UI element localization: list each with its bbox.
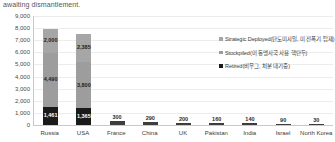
y-axis-tick-label: 1,000 (0, 110, 30, 116)
bar-value-label: 290 (146, 115, 155, 121)
bar-value-label: 2,385 (77, 45, 91, 51)
y-axis-tick-label: 6,000 (0, 49, 30, 55)
x-axis-labels: RussiaUSAFranceChinaUKPakistanIndiaIsrae… (33, 127, 333, 142)
bar-segment[interactable]: 1,461 (43, 107, 58, 125)
bar-slot: 290 (134, 16, 167, 125)
bar[interactable]: 300 (110, 121, 125, 125)
y-axis-tick-label: 8,000 (0, 25, 30, 31)
x-axis-category-label: UK (166, 127, 199, 136)
x-axis-category-label: USA (66, 127, 99, 136)
x-axis-category-label: Israel (266, 127, 299, 136)
legend-label: Strategic Deployed(탄도미사일, 미 전폭기 탑재) (225, 35, 335, 43)
bar-value-label: 2,000 (44, 38, 58, 44)
bar-value-label: 90 (280, 117, 286, 123)
x-axis-category-label: India (233, 127, 266, 136)
stacked-bar-chart: 2,0004,4901,4612,3853,8001,3653002902001… (0, 11, 335, 142)
legend-label: Stockpiled(미 동맹사국 사용 핵탄두) (225, 49, 307, 57)
x-axis-category-label: China (133, 127, 166, 136)
x-axis-category-label: Russia (33, 127, 66, 136)
legend-swatch-icon (219, 64, 223, 68)
bar-segment[interactable]: 1,365 (76, 108, 91, 125)
bar-value-label: 140 (245, 116, 254, 122)
y-axis-tick-label: 0 (0, 122, 30, 128)
bar-slot: 2,0004,4901,461 (34, 16, 67, 125)
bar[interactable]: 140 (242, 123, 257, 125)
legend-swatch-icon (219, 37, 223, 41)
legend-swatch-icon (219, 51, 223, 55)
bar-value-label: 4,490 (44, 77, 58, 83)
bar-segment[interactable]: 2,385 (76, 34, 91, 63)
y-axis-tick-label: 9,000 (0, 13, 30, 19)
legend-item-strategic-deployed: Strategic Deployed(탄도미사일, 미 전폭기 탑재) (219, 35, 335, 43)
bar-segment[interactable]: 3,800 (76, 62, 91, 108)
y-axis-tick-label: 3,000 (0, 86, 30, 92)
legend-item-retired: Retired(비무그, 처분 대기중) (219, 62, 335, 70)
chart-legend: Strategic Deployed(탄도미사일, 미 전폭기 탑재) Stoc… (219, 35, 335, 76)
y-axis-tick-label: 4,000 (0, 74, 30, 80)
bar[interactable]: 160 (209, 123, 224, 125)
bar-value-label: 1,461 (44, 113, 58, 119)
stacked-bar[interactable]: 2,0004,4901,461 (43, 29, 58, 125)
x-axis-category-label: Pakistan (200, 127, 233, 136)
y-axis-tick-label: 7,000 (0, 37, 30, 43)
bar[interactable]: 30 (309, 124, 324, 126)
legend-label: Retired(비무그, 처분 대기중) (225, 62, 290, 70)
bar-segment[interactable]: 4,490 (43, 53, 58, 107)
chart-screenshot: awaiting dismantlement. 2,0004,4901,4612… (0, 0, 335, 142)
legend-item-stockpiled: Stockpiled(미 동맹사국 사용 핵탄두) (219, 49, 335, 57)
x-axis-category-label: France (100, 127, 133, 136)
stacked-bar[interactable]: 2,3853,8001,365 (76, 34, 91, 125)
bar-value-label: 200 (179, 116, 188, 122)
plot-area: 2,0004,4901,4612,3853,8001,3653002902001… (33, 16, 333, 126)
bar[interactable]: 290 (143, 122, 158, 126)
bar-value-label: 300 (112, 114, 121, 120)
bar-slot: 300 (100, 16, 133, 125)
bar[interactable]: 90 (276, 124, 291, 126)
bar-slot: 200 (167, 16, 200, 125)
bar-segment[interactable]: 2,000 (43, 29, 58, 53)
bar[interactable]: 200 (176, 123, 191, 125)
bar-slot: 2,3853,8001,365 (67, 16, 100, 125)
y-axis-tick-label: 5,000 (0, 61, 30, 67)
x-axis-category-label: North Korea (300, 127, 333, 136)
bar-value-label: 1,365 (77, 114, 91, 120)
y-axis-tick-label: 2,000 (0, 98, 30, 104)
bar-value-label: 3,800 (77, 83, 91, 89)
bar-value-label: 160 (212, 116, 221, 122)
bar-value-label: 30 (313, 117, 319, 123)
caption-text: awaiting dismantlement. (3, 1, 80, 8)
